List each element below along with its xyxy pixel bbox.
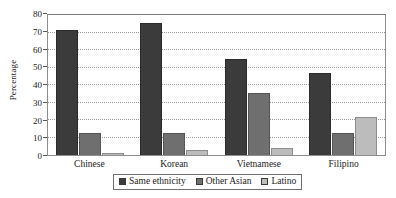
legend-swatch-icon (119, 178, 126, 185)
plot-area (47, 14, 386, 156)
chart-legend: Same ethnicityOther AsianLatino (113, 174, 302, 190)
bar[interactable] (332, 133, 354, 155)
y-axis-tick-label: 50 (18, 63, 42, 72)
y-axis-tick-label: 60 (18, 45, 42, 54)
bar[interactable] (355, 117, 377, 155)
x-axis-tick-label: Filipino (301, 158, 386, 172)
bars-layer (48, 15, 385, 155)
bar[interactable] (102, 153, 124, 155)
bar[interactable] (225, 59, 247, 155)
y-axis-tick-label: 0 (18, 152, 42, 161)
y-axis-tick-label: 30 (18, 98, 42, 107)
bar-group (48, 15, 132, 155)
y-axis-tick-label: 10 (18, 134, 42, 143)
y-axis-tick-label: 20 (18, 116, 42, 125)
bar[interactable] (309, 73, 331, 155)
bar[interactable] (163, 133, 185, 155)
x-axis-tick-labels: ChineseKoreanVietnameseFilipino (47, 158, 386, 172)
bar-group (132, 15, 216, 155)
bar[interactable] (79, 133, 101, 155)
legend-swatch-icon (261, 178, 268, 185)
legend-entry[interactable]: Other Asian (196, 176, 252, 187)
bar[interactable] (186, 150, 208, 155)
bar-group (217, 15, 301, 155)
y-axis-tick-label: 40 (18, 81, 42, 90)
legend-label: Other Asian (206, 176, 252, 187)
x-axis-tick-label: Vietnamese (217, 158, 302, 172)
bar[interactable] (248, 93, 270, 155)
legend-entry[interactable]: Same ethnicity (119, 176, 186, 187)
legend-label: Same ethnicity (129, 176, 186, 187)
x-axis-tick-label: Korean (132, 158, 217, 172)
legend-label: Latino (271, 176, 296, 187)
bar[interactable] (56, 30, 78, 155)
bar-group (301, 15, 385, 155)
y-axis-title-label: Percentage (8, 60, 18, 100)
y-axis-tick-label: 80 (18, 10, 42, 19)
y-axis-tick-labels: 01020304050607080 (18, 14, 42, 156)
legend-entry[interactable]: Latino (261, 176, 296, 187)
bar-chart-figure: Percentage 01020304050607080 ChineseKore… (0, 0, 396, 198)
bar[interactable] (271, 148, 293, 155)
y-axis-tick-label: 70 (18, 27, 42, 36)
bar[interactable] (140, 23, 162, 155)
legend-swatch-icon (196, 178, 203, 185)
x-axis-tick-label: Chinese (47, 158, 132, 172)
